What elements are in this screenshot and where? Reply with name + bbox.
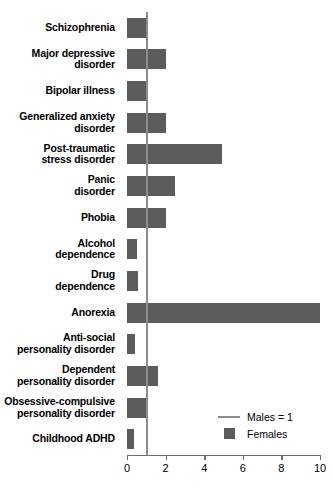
category-label: Post-traumatic stress disorder — [0, 139, 120, 171]
category-label-line: Anorexia — [71, 307, 115, 319]
category-axis-labels: Schizophrenia Major depressive disorder … — [0, 12, 120, 455]
category-label: Generalized anxiety disorder — [0, 107, 120, 139]
x-axis-tick-label: 0 — [124, 462, 130, 474]
category-label-line: personality disorder — [17, 344, 115, 356]
x-axis-tick — [320, 455, 321, 460]
bar-row — [127, 12, 320, 44]
bar-row — [127, 202, 320, 234]
category-label: Schizophrenia — [0, 12, 120, 44]
x-axis-tick-label: 2 — [163, 462, 169, 474]
category-label-line: stress disorder — [41, 154, 115, 166]
x-axis-tick — [204, 455, 205, 460]
bar-row — [127, 170, 320, 202]
males-reference-line — [146, 12, 147, 455]
x-axis-tick-label: 10 — [314, 462, 326, 474]
bar-rows — [127, 12, 320, 455]
x-axis-tick — [243, 455, 244, 460]
bar-females — [127, 239, 137, 259]
legend-item-males: Males = 1 — [218, 408, 324, 425]
bar-females — [127, 334, 135, 354]
category-label-line: Schizophrenia — [45, 22, 115, 34]
category-label: Bipolar illness — [0, 75, 120, 107]
bar-females — [127, 303, 320, 323]
bar-row — [127, 360, 320, 392]
category-label-line: Generalized anxiety — [19, 111, 115, 123]
bar-females — [127, 429, 134, 449]
x-axis-ticks: 0246810 — [127, 455, 320, 477]
x-axis-tick — [166, 455, 167, 460]
x-axis-tick-label: 4 — [201, 462, 207, 474]
category-label-line: personality disorder — [4, 408, 115, 420]
category-label-line: Bipolar illness — [45, 85, 115, 97]
bar-females — [127, 176, 175, 196]
category-label: Anti-social personality disorder — [0, 328, 120, 360]
bar-row — [127, 44, 320, 76]
bar-row — [127, 107, 320, 139]
bar-row — [127, 139, 320, 171]
bar-row — [127, 75, 320, 107]
category-label: Alcohol dependence — [0, 233, 120, 265]
bar-chart: Schizophrenia Major depressive disorder … — [0, 0, 333, 488]
bar-row — [127, 328, 320, 360]
category-label: Dependent personality disorder — [0, 360, 120, 392]
category-label: Major depressive disorder — [0, 44, 120, 76]
bar-females — [127, 271, 138, 291]
bar-row — [127, 297, 320, 329]
line-swatch-icon — [218, 416, 240, 418]
plot-area — [127, 12, 320, 455]
bar-females — [127, 81, 146, 101]
bar-row — [127, 233, 320, 265]
bar-females — [127, 398, 147, 418]
legend-label: Males = 1 — [247, 411, 293, 423]
x-axis-tick — [281, 455, 282, 460]
square-swatch-icon — [224, 428, 235, 439]
bar-females — [127, 144, 222, 164]
category-label: Panic disorder — [0, 170, 120, 202]
category-label: Drug dependence — [0, 265, 120, 297]
x-axis-tick-label: 6 — [240, 462, 246, 474]
category-label-line: disorder — [19, 123, 115, 135]
category-label-line: personality disorder — [17, 376, 115, 388]
x-axis-tick-label: 8 — [278, 462, 284, 474]
category-label: Anorexia — [0, 297, 120, 329]
category-label-line: dependence — [55, 249, 115, 261]
category-label: Childhood ADHD — [0, 423, 120, 455]
category-label: Phobia — [0, 202, 120, 234]
bar-females — [127, 366, 158, 386]
category-label-line: Phobia — [81, 212, 115, 224]
legend-item-females: Females — [218, 425, 324, 442]
category-label-line: disorder — [74, 186, 115, 198]
category-label: Obsessive-compulsive personality disorde… — [0, 392, 120, 424]
legend-label: Females — [247, 428, 287, 440]
legend: Males = 1 Females — [218, 408, 324, 442]
category-label-line: dependence — [55, 281, 115, 293]
bar-females — [127, 18, 146, 38]
bar-row — [127, 265, 320, 297]
category-label-line: disorder — [32, 59, 115, 71]
x-axis-tick — [127, 455, 128, 460]
category-label-line: Obsessive-compulsive — [4, 396, 115, 408]
category-label-line: Childhood ADHD — [32, 433, 115, 445]
